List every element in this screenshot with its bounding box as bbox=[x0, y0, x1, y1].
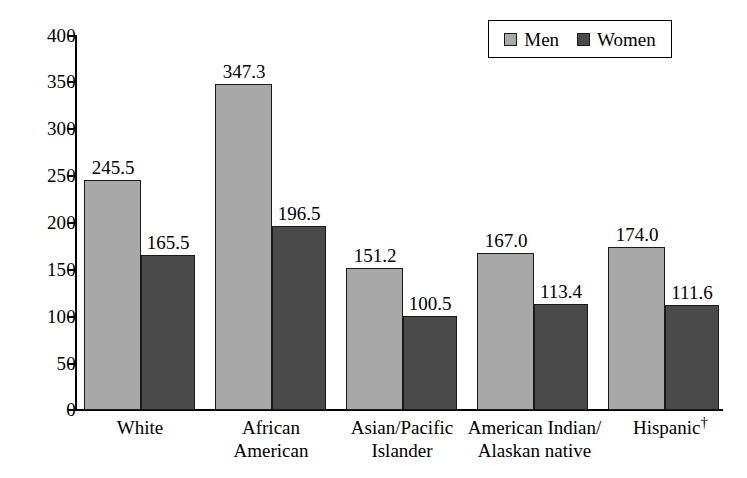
bar-value-men-american-indian-alaskan-native: 167.0 bbox=[475, 231, 537, 250]
legend-label-women: Women bbox=[597, 30, 656, 49]
plot-area: 245.5 165.5 347.3 196.5 151.2 100.5 167.… bbox=[77, 35, 723, 410]
x-category-label-asian-pacific-islander: Asian/Pacific Islander bbox=[332, 416, 472, 462]
footnote-dagger-icon: † bbox=[701, 414, 709, 430]
bar-group-asian-pacific-islander: 151.2 100.5 bbox=[346, 35, 458, 410]
bar-value-women-asian-pacific-islander: 100.5 bbox=[399, 294, 461, 313]
legend-entry-men[interactable]: Men bbox=[504, 30, 559, 49]
x-category-label-hispanic: Hispanic† bbox=[608, 416, 733, 439]
legend-swatch-men-icon bbox=[504, 33, 517, 46]
bar-value-men-hispanic: 174.0 bbox=[606, 225, 668, 244]
y-tick-label: 50 bbox=[14, 354, 76, 373]
x-category-label-white: White bbox=[84, 416, 196, 439]
x-category-line: American Indian/ bbox=[452, 416, 617, 439]
y-tick-label: 250 bbox=[14, 166, 76, 185]
legend: Men Women bbox=[488, 20, 672, 58]
bar-group-hispanic: 174.0 111.6 bbox=[608, 35, 720, 410]
bar-women-asian-pacific-islander[interactable] bbox=[403, 316, 457, 410]
bar-men-american-indian-alaskan-native[interactable] bbox=[477, 253, 534, 410]
legend-swatch-women-icon bbox=[577, 33, 590, 46]
x-category-line: Hispanic† bbox=[608, 416, 733, 439]
bar-value-women-american-indian-alaskan-native: 113.4 bbox=[530, 282, 592, 301]
y-tick-label: 400 bbox=[14, 26, 76, 45]
x-category-line: Alaskan native bbox=[452, 439, 617, 462]
bar-men-hispanic[interactable] bbox=[608, 247, 665, 410]
y-tick-label: 100 bbox=[14, 307, 76, 326]
bar-value-men-african-american: 347.3 bbox=[213, 62, 275, 81]
x-category-line: Asian/Pacific bbox=[332, 416, 472, 439]
bar-chart: 400 350 300 250 200 150 100 50 bbox=[0, 0, 747, 478]
bar-group-white: 245.5 165.5 bbox=[84, 35, 196, 410]
bar-value-men-asian-pacific-islander: 151.2 bbox=[344, 246, 406, 265]
x-category-line: American bbox=[215, 439, 327, 462]
x-category-label-african-american: African American bbox=[215, 416, 327, 462]
bar-value-women-white: 165.5 bbox=[137, 233, 199, 252]
y-tick-label: 150 bbox=[14, 260, 76, 279]
y-tick-label: 300 bbox=[14, 119, 76, 138]
bar-men-asian-pacific-islander[interactable] bbox=[346, 268, 403, 410]
y-tick-label: 200 bbox=[14, 213, 76, 232]
bar-women-hispanic[interactable] bbox=[665, 305, 719, 410]
x-category-line: African bbox=[215, 416, 327, 439]
legend-entry-women[interactable]: Women bbox=[577, 30, 656, 49]
x-category-text: Hispanic bbox=[633, 417, 701, 438]
bar-women-american-indian-alaskan-native[interactable] bbox=[534, 304, 588, 410]
bar-group-african-american: 347.3 196.5 bbox=[215, 35, 327, 410]
bar-women-white[interactable] bbox=[141, 255, 195, 410]
x-category-label-american-indian-alaskan-native: American Indian/ Alaskan native bbox=[452, 416, 617, 462]
y-tick-label: 0 bbox=[14, 400, 76, 419]
y-tick-label: 350 bbox=[14, 72, 76, 91]
x-category-line: White bbox=[84, 416, 196, 439]
bar-women-african-american[interactable] bbox=[272, 226, 326, 410]
bar-group-american-indian-alaskan-native: 167.0 113.4 bbox=[477, 35, 589, 410]
bar-value-women-hispanic: 111.6 bbox=[661, 283, 723, 302]
bar-value-women-african-american: 196.5 bbox=[268, 204, 330, 223]
x-category-line: Islander bbox=[332, 439, 472, 462]
bar-men-white[interactable] bbox=[84, 180, 141, 410]
bar-value-men-white: 245.5 bbox=[82, 158, 144, 177]
bar-men-african-american[interactable] bbox=[215, 84, 272, 410]
legend-label-men: Men bbox=[524, 30, 559, 49]
